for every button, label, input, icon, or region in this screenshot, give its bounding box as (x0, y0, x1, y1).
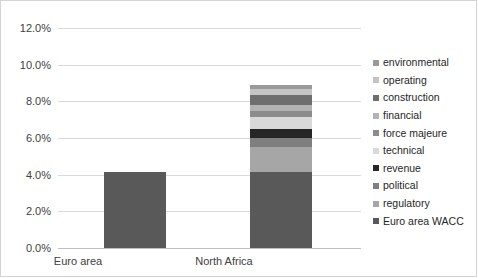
legend-swatch-icon (373, 77, 379, 83)
bar-segment-construction[interactable] (250, 95, 312, 105)
legend-item-force-majeure[interactable]: force majeure (373, 124, 477, 142)
legend-swatch-icon (373, 95, 379, 101)
y-axis-tick-label: 6.0% (0, 133, 51, 144)
y-axis-tick-label: 4.0% (0, 170, 51, 181)
legend-swatch-icon (373, 165, 379, 171)
legend-item-financial[interactable]: financial (373, 107, 477, 125)
legend-item-euro-area-wacc[interactable]: Euro area WACC (373, 212, 477, 230)
legend-swatch-icon (373, 113, 379, 119)
legend-item-political[interactable]: political (373, 177, 477, 195)
chart-container: 0.0%2.0%4.0%6.0%8.0%10.0%12.0% Euro area… (0, 0, 477, 277)
legend-swatch-icon (373, 218, 379, 224)
legend-label: Euro area WACC (383, 216, 464, 227)
gridline (58, 138, 361, 139)
y-axis-tick-label: 2.0% (0, 206, 51, 217)
bar-segment-political[interactable] (250, 138, 312, 147)
legend-label: force majeure (383, 128, 447, 139)
plot-area (58, 28, 361, 248)
legend-swatch-icon (373, 130, 379, 136)
y-axis-tick-label: 12.0% (0, 23, 51, 34)
chart-legend: environmentaloperatingconstructionfinanc… (373, 54, 477, 230)
legend-label: operating (383, 75, 427, 86)
legend-item-revenue[interactable]: revenue (373, 160, 477, 178)
legend-label: political (383, 180, 418, 191)
legend-swatch-icon (373, 183, 379, 189)
bar-segment-euro-area-wacc[interactable] (250, 172, 312, 248)
legend-label: technical (383, 145, 424, 156)
legend-item-construction[interactable]: construction (373, 89, 477, 107)
legend-swatch-icon (373, 201, 379, 207)
legend-label: regulatory (383, 198, 430, 209)
legend-swatch-icon (373, 60, 379, 66)
bar-stack-euro-area (104, 172, 166, 248)
legend-label: revenue (383, 163, 421, 174)
legend-swatch-icon (373, 148, 379, 154)
legend-item-operating[interactable]: operating (373, 72, 477, 90)
bar-segment-regulatory[interactable] (250, 147, 312, 172)
x-axis-line (58, 248, 361, 249)
gridline (58, 28, 361, 29)
bar-stack-north-africa (250, 85, 312, 248)
gridline (58, 101, 361, 102)
y-axis-tick-label: 0.0% (0, 243, 51, 254)
bar-segment-revenue[interactable] (250, 129, 312, 138)
y-axis-tick-label: 8.0% (0, 96, 51, 107)
gridline (58, 65, 361, 66)
y-axis-tick-label: 10.0% (0, 60, 51, 71)
legend-label: environmental (383, 57, 449, 68)
legend-item-regulatory[interactable]: regulatory (373, 195, 477, 213)
x-axis-label-euro-area: Euro area (18, 255, 138, 267)
bar-segment-euro-area-wacc[interactable] (104, 172, 166, 248)
legend-label: financial (383, 110, 422, 121)
bar-segment-technical[interactable] (250, 117, 312, 129)
legend-item-environmental[interactable]: environmental (373, 54, 477, 72)
legend-item-technical[interactable]: technical (373, 142, 477, 160)
x-axis-label-north-africa: North Africa (164, 255, 284, 267)
legend-label: construction (383, 92, 440, 103)
